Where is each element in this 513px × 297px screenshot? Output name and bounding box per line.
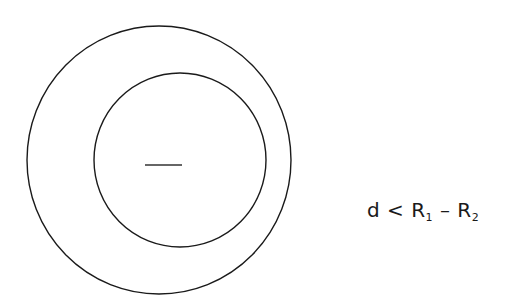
diagram-canvas	[0, 0, 513, 297]
inner-circle	[94, 73, 266, 247]
outer-circle	[27, 26, 291, 294]
formula-less-than: <	[387, 198, 404, 222]
formula-r1: R1	[411, 198, 433, 222]
formula-r2: R2	[457, 198, 479, 222]
formula-distance: d	[367, 198, 380, 222]
formula-minus: –	[440, 198, 451, 222]
condition-formula: d < R1 – R2	[367, 198, 479, 224]
